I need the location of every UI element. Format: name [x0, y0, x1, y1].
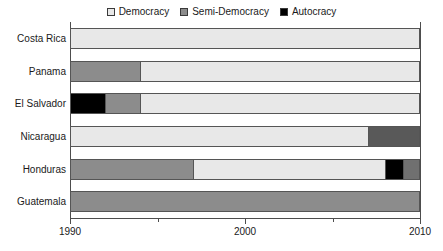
plot-area — [70, 22, 420, 218]
legend-swatch-democracy — [107, 8, 115, 16]
x-axis-tick — [333, 218, 334, 222]
axis-line-left — [70, 22, 71, 218]
bar-row — [70, 191, 420, 212]
legend-label-semi-democracy: Semi-Democracy — [192, 6, 269, 18]
x-axis-tick — [70, 218, 71, 224]
legend-label-autocracy: Autocracy — [292, 6, 336, 18]
bar-segment-democracy — [71, 29, 420, 48]
bar-segment-semi-democracy — [404, 160, 421, 179]
y-axis-category-labels: Costa RicaPanamaEl SalvadorNicaraguaHond… — [0, 22, 66, 218]
regime-type-timeline-chart: Democracy Semi-Democracy Autocracy Costa… — [0, 0, 443, 251]
bar-segment-semi-democracy — [106, 94, 141, 113]
x-axis-tick-label-2010: 2010 — [409, 226, 431, 238]
x-axis-tick — [420, 218, 421, 224]
legend-swatch-semi-democracy — [180, 8, 188, 16]
y-axis-label-guatemala: Guatemala — [0, 196, 66, 207]
bar-segment-democracy — [71, 127, 369, 146]
y-axis-label-nicaragua: Nicaragua — [0, 131, 66, 142]
bar-row — [70, 159, 420, 180]
bar-segment-autocracy — [386, 160, 404, 179]
x-axis: 199020002010 — [70, 218, 421, 248]
bar-row — [70, 93, 420, 114]
legend-item-democracy: Democracy — [107, 6, 170, 18]
bar-segment-democracy — [141, 94, 420, 113]
bar-row — [70, 28, 420, 49]
axis-line-right — [420, 22, 421, 218]
x-axis-tick — [158, 218, 159, 222]
x-axis-tick-label-2000: 2000 — [234, 226, 256, 238]
x-axis-tick — [245, 218, 246, 224]
legend-label-democracy: Democracy — [119, 6, 170, 18]
bar-segment-semi-democracy — [71, 62, 141, 81]
legend-item-semi-democracy: Semi-Democracy — [180, 6, 269, 18]
chart-legend: Democracy Semi-Democracy Autocracy — [0, 6, 443, 18]
legend-item-autocracy: Autocracy — [280, 6, 336, 18]
x-axis-tick-label-1990: 1990 — [59, 226, 81, 238]
bar-row — [70, 126, 420, 147]
bar-row — [70, 61, 420, 82]
bar-segment-democracy — [141, 62, 420, 81]
legend-swatch-autocracy — [280, 8, 288, 16]
y-axis-label-panama: Panama — [0, 66, 66, 77]
bar-segment-democracy — [194, 160, 387, 179]
bar-segment-semi-democracy — [369, 127, 421, 146]
y-axis-label-honduras: Honduras — [0, 164, 66, 175]
y-axis-label-el-salvador: El Salvador — [0, 98, 66, 109]
y-axis-label-costa-rica: Costa Rica — [0, 33, 66, 44]
bar-segment-semi-democracy — [71, 192, 420, 211]
bar-segment-autocracy — [71, 94, 106, 113]
bar-segment-semi-democracy — [71, 160, 194, 179]
